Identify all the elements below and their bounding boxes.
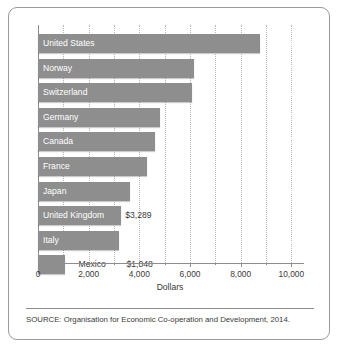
bar-category-label: Japan xyxy=(43,182,66,201)
x-axis-tick xyxy=(291,263,292,267)
x-axis-tick xyxy=(266,263,267,265)
bar-row: Germany$4,811 xyxy=(38,108,304,127)
bar-value-label: $4,288 xyxy=(273,157,299,176)
bar-category-label: United Kingdom xyxy=(43,206,104,225)
bar-value-label: $3,649 xyxy=(273,182,299,201)
bar-category-label: United States xyxy=(43,34,95,53)
bar-category-label: Canada xyxy=(43,132,73,151)
bar-value-label: $4,811 xyxy=(273,108,299,127)
x-axis-title: Dollars xyxy=(9,282,331,292)
x-axis-line xyxy=(38,263,304,264)
bar-category-label: Switzerland xyxy=(43,83,87,102)
bar-value-label: $6,080 xyxy=(273,83,299,102)
bar xyxy=(38,255,65,274)
bar-value-label: $3,209 xyxy=(273,231,299,250)
x-axis-tick-label: 6,000 xyxy=(180,269,201,279)
bar-row: France$4,288 xyxy=(38,157,304,176)
bar-row: United Kingdom$3,289 xyxy=(38,206,304,225)
bar-category-label: France xyxy=(43,157,70,176)
x-axis-tick xyxy=(139,263,140,267)
bar-value-label: $3,289 xyxy=(125,206,151,225)
bars-layer: United States$8,745Norway$6,140Switzerla… xyxy=(38,25,304,263)
bar-row: United States$8,745 xyxy=(38,34,304,53)
source-divider xyxy=(26,308,314,309)
x-axis-tick xyxy=(165,263,166,265)
bar-value-label: $8,745 xyxy=(273,34,299,53)
bar-row: Japan$3,649 xyxy=(38,182,304,201)
x-axis-tick-label: 10,000 xyxy=(279,269,305,279)
bar-row: Canada$4,602 xyxy=(38,132,304,151)
x-axis-tick xyxy=(190,263,191,267)
x-axis-tick xyxy=(63,263,64,265)
x-axis-tick-label: 0 xyxy=(36,269,41,279)
bar-category-label: Germany xyxy=(43,108,78,127)
x-axis-tick xyxy=(38,263,39,267)
x-axis-tick xyxy=(215,263,216,265)
bar-value-label: $4,602 xyxy=(273,132,299,151)
chart-plot-area: United States$8,745Norway$6,140Switzerla… xyxy=(38,25,304,263)
source-note: SOURCE: Organisation for Economic Co-ope… xyxy=(26,314,316,326)
x-axis-tick-label: 4,000 xyxy=(129,269,150,279)
x-axis-tick-label: 8,000 xyxy=(230,269,251,279)
bar-category-label: Italy xyxy=(43,231,59,250)
x-axis-tick xyxy=(241,263,242,267)
bar-row: Switzerland$6,080 xyxy=(38,83,304,102)
x-axis-tick-label: 2,000 xyxy=(78,269,99,279)
bar-value-label: $6,140 xyxy=(273,59,299,78)
bar-row: Norway$6,140 xyxy=(38,59,304,78)
x-axis-tick xyxy=(89,263,90,267)
x-axis-tick xyxy=(114,263,115,265)
bar-row: Italy$3,209 xyxy=(38,231,304,250)
figure-card: United States$8,745Norway$6,140Switzerla… xyxy=(8,7,330,340)
bar-category-label: Norway xyxy=(43,59,72,78)
